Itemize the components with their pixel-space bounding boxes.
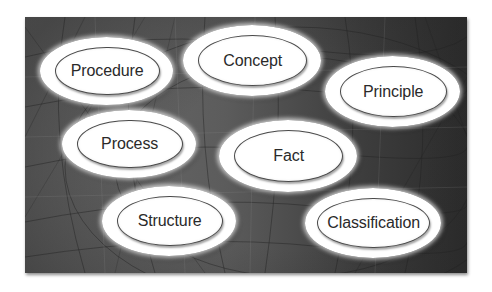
node-label: Procedure <box>71 62 144 80</box>
node-ring: Procedure <box>55 47 160 96</box>
node-ring: Fact <box>234 130 343 182</box>
node-procedure: Procedure <box>40 37 173 105</box>
node-label: Principle <box>363 83 423 101</box>
node-ring: Principle <box>340 66 447 117</box>
node-ring: Process <box>77 120 183 169</box>
node-classification: Classification <box>305 188 441 258</box>
node-label: Fact <box>273 147 304 165</box>
node-concept: Concept <box>183 25 321 96</box>
node-ring: Classification <box>317 198 430 248</box>
node-fact: Fact <box>219 120 357 192</box>
node-ring: Concept <box>198 35 307 86</box>
node-label: Concept <box>223 52 282 70</box>
node-principle: Principle <box>325 56 460 127</box>
node-label: Classification <box>327 214 420 232</box>
node-label: Structure <box>138 212 202 230</box>
node-structure: Structure <box>102 186 236 256</box>
node-process: Process <box>62 110 196 178</box>
node-label: Process <box>101 135 158 153</box>
node-ring: Structure <box>117 196 223 246</box>
